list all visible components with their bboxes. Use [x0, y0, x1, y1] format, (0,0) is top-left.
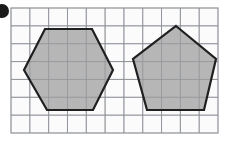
bullet-marker — [0, 4, 9, 18]
figure-container — [0, 0, 235, 142]
figure-canvas — [0, 0, 235, 142]
